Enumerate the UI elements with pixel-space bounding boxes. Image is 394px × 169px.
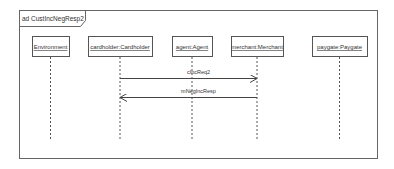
lifeline-label: cardholder:Cardholder xyxy=(90,44,150,50)
message-label: mNegIncResp xyxy=(181,88,216,94)
message-label: cIncReq2 xyxy=(187,69,210,75)
diagram-frame xyxy=(20,11,378,159)
lifeline-label: agent:Agent xyxy=(176,44,209,50)
lifeline-label: merchant:Merchant xyxy=(231,44,283,50)
diagram-title: ad CustIncNegResp2 xyxy=(22,15,84,23)
lifeline-label: paygate:Paygate xyxy=(317,44,363,50)
sequence-diagram: ad CustIncNegResp2 Environmentcardholder… xyxy=(0,0,394,169)
lifeline-label: Environment xyxy=(34,44,68,50)
